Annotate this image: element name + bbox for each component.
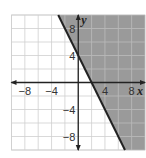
- y-tick-label: 4: [69, 50, 75, 62]
- y-tick-label: −8: [63, 131, 76, 143]
- inequality-graph: −8−448 84−4−8 x y: [0, 0, 146, 158]
- y-axis-label: y: [79, 13, 87, 27]
- x-axis-label: x: [136, 84, 143, 98]
- y-tick-label: 8: [69, 23, 75, 35]
- y-tick-label: −4: [63, 104, 76, 116]
- x-tick-label: 8: [129, 85, 135, 97]
- x-tick-label: −4: [45, 85, 58, 97]
- x-tick-label: −8: [19, 85, 32, 97]
- x-tick-label: 4: [102, 85, 108, 97]
